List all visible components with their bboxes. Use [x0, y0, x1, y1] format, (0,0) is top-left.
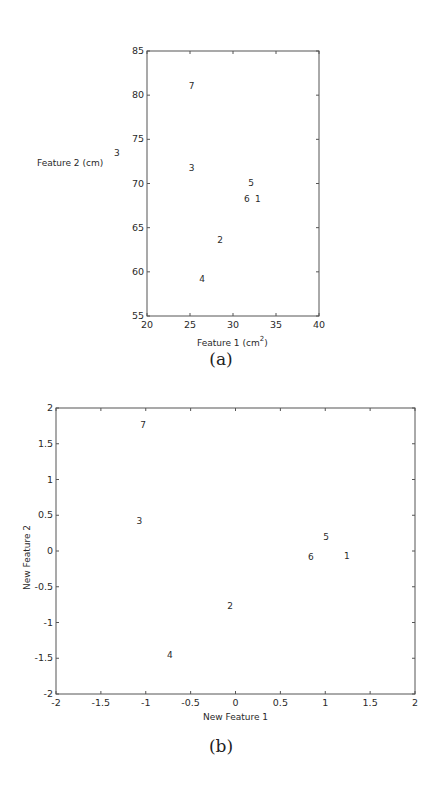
plot-b-points: 1234567	[137, 420, 350, 660]
data-point-label: 6	[308, 552, 314, 562]
plot-b-ticks	[56, 408, 415, 694]
plot-a-frame	[147, 51, 319, 316]
y-tick-label: 75	[132, 133, 144, 144]
y-tick-label: -1.5	[34, 652, 53, 663]
y-tick-label: 85	[132, 45, 144, 56]
x-tick-label: -1	[141, 697, 150, 708]
data-point-label: 3	[189, 163, 195, 173]
y-tick-label: -2	[44, 688, 53, 699]
y-tick-label: 70	[132, 178, 144, 189]
data-point-label: 2	[217, 235, 223, 245]
caption-a: (a)	[209, 349, 232, 369]
plot-a-ylabel-superscript: 3	[114, 148, 120, 158]
x-tick-label: 2	[412, 697, 418, 708]
y-tick-label: -0.5	[34, 581, 53, 592]
x-tick-label: 35	[270, 319, 282, 330]
plot-a-points: 1234567	[189, 81, 261, 284]
x-tick-label: 0	[232, 697, 238, 708]
y-tick-label: 1	[47, 474, 53, 485]
plot-b-xticklabels: -2-1.5-1-0.500.511.52	[51, 697, 418, 708]
x-tick-label: 1	[322, 697, 328, 708]
data-point-label: 7	[140, 420, 146, 430]
scatter-plot-a: 2025303540 55606570758085 1234567 Featur…	[0, 0, 440, 380]
data-point-label: 6	[244, 194, 250, 204]
plot-b-frame	[56, 408, 415, 694]
plot-b-ylabel: New Feature 2	[22, 525, 32, 590]
data-point-label: 7	[189, 81, 195, 91]
data-point-label: 1	[255, 194, 261, 204]
data-point-label: 3	[137, 516, 143, 526]
caption-b: (b)	[209, 736, 233, 756]
y-tick-label: 0	[47, 545, 53, 556]
plot-b-yticklabels: -2-1.5-1-0.500.511.52	[34, 402, 53, 699]
data-point-label: 4	[199, 274, 205, 284]
y-tick-label: 60	[132, 266, 144, 277]
x-tick-label: 40	[313, 319, 325, 330]
plot-a-xticklabels: 2025303540	[141, 319, 325, 330]
y-tick-label: 0.5	[38, 509, 53, 520]
plot-a-ticks	[147, 51, 319, 316]
x-tick-label: 25	[184, 319, 196, 330]
data-point-label: 4	[167, 650, 173, 660]
data-point-label: 5	[248, 178, 254, 188]
x-tick-label: -1.5	[92, 697, 111, 708]
plot-a-yticklabels: 55606570758085	[132, 45, 144, 321]
data-point-label: 5	[323, 532, 329, 542]
y-tick-label: 80	[132, 89, 144, 100]
x-tick-label: 30	[227, 319, 239, 330]
plot-a-ylabel: Feature 2 (cm)	[37, 158, 103, 168]
plot-a-xlabel: Feature 1 (cm2)	[197, 335, 268, 348]
y-tick-label: -1	[44, 617, 53, 628]
data-point-label: 1	[344, 551, 350, 561]
y-tick-label: 55	[132, 310, 144, 321]
x-tick-label: 1.5	[363, 697, 378, 708]
scatter-plot-b: -2-1.5-1-0.500.511.52 -2-1.5-1-0.500.511…	[0, 380, 440, 792]
y-tick-label: 2	[47, 402, 53, 413]
x-tick-label: -0.5	[181, 697, 200, 708]
x-tick-label: 0.5	[273, 697, 288, 708]
plot-b-xlabel: New Feature 1	[203, 712, 268, 722]
data-point-label: 2	[227, 601, 233, 611]
y-tick-label: 1.5	[38, 438, 53, 449]
y-tick-label: 65	[132, 222, 144, 233]
